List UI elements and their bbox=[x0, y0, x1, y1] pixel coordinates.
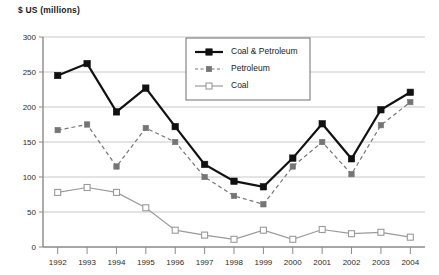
x-axis-tick-label: 1994 bbox=[108, 258, 126, 267]
data-point-marker bbox=[114, 164, 119, 169]
legend-marker-sample bbox=[206, 66, 211, 71]
data-point-marker bbox=[319, 121, 325, 127]
data-point-marker bbox=[113, 109, 119, 115]
data-point-marker bbox=[349, 231, 355, 237]
x-axis-tick-label: 1992 bbox=[49, 258, 67, 267]
data-point-marker bbox=[172, 227, 178, 233]
data-point-marker bbox=[319, 227, 325, 233]
legend-item-label: Coal & Petroleum bbox=[231, 46, 298, 56]
data-point-marker bbox=[55, 72, 61, 78]
legend-marker-sample bbox=[206, 83, 212, 89]
y-axis-tick-label: 0 bbox=[32, 243, 37, 252]
data-point-marker bbox=[231, 236, 237, 242]
data-point-marker bbox=[260, 227, 266, 233]
x-axis-tick-label: 2003 bbox=[372, 258, 390, 267]
legend-item-label: Petroleum bbox=[231, 63, 270, 73]
x-axis-tick-label: 2004 bbox=[401, 258, 419, 267]
y-axis-tick-label: 300 bbox=[23, 33, 37, 42]
data-point-marker bbox=[202, 174, 207, 179]
data-point-marker bbox=[231, 178, 237, 184]
x-axis-tick-label: 1999 bbox=[254, 258, 272, 267]
x-axis-tick-label: 1993 bbox=[78, 258, 96, 267]
x-axis-tick-label: 2000 bbox=[284, 258, 302, 267]
data-point-marker bbox=[290, 155, 296, 161]
x-axis-ticks-group: 1992199319941995199619971998199920002001… bbox=[49, 247, 420, 267]
data-point-marker bbox=[378, 123, 383, 128]
data-point-marker bbox=[260, 184, 266, 190]
legend-item-label: Coal bbox=[231, 80, 249, 90]
y-axis-tick-label: 100 bbox=[23, 173, 37, 182]
x-axis-tick-label: 1997 bbox=[196, 258, 214, 267]
chart-legend: Coal & PetroleumPetroleumCoal bbox=[186, 38, 310, 100]
chart-container: $ US (millions) 050100150200250300 19921… bbox=[0, 0, 439, 275]
data-point-marker bbox=[231, 193, 236, 198]
y-axis-tick-label: 250 bbox=[23, 68, 37, 77]
y-axis-tick-label: 200 bbox=[23, 103, 37, 112]
x-axis-tick-label: 1998 bbox=[225, 258, 243, 267]
data-point-marker bbox=[201, 161, 207, 167]
data-point-marker bbox=[407, 234, 413, 240]
data-point-marker bbox=[290, 236, 296, 242]
data-point-marker bbox=[114, 189, 120, 195]
data-point-marker bbox=[408, 99, 413, 104]
data-point-marker bbox=[84, 185, 90, 191]
data-point-marker bbox=[84, 122, 89, 127]
data-point-marker bbox=[348, 156, 354, 162]
x-axis-tick-label: 2001 bbox=[313, 258, 331, 267]
data-point-marker bbox=[261, 202, 266, 207]
data-point-marker bbox=[320, 139, 325, 144]
data-point-marker bbox=[173, 139, 178, 144]
data-point-marker bbox=[55, 189, 61, 195]
y-axis-tick-label: 150 bbox=[23, 138, 37, 147]
data-point-marker bbox=[202, 232, 208, 238]
data-point-marker bbox=[55, 127, 60, 132]
data-point-marker bbox=[143, 205, 149, 211]
x-axis-tick-label: 1996 bbox=[166, 258, 184, 267]
series-line bbox=[58, 102, 411, 204]
data-point-marker bbox=[378, 107, 384, 113]
x-axis-tick-label: 2002 bbox=[343, 258, 361, 267]
data-point-marker bbox=[290, 164, 295, 169]
x-axis-tick-label: 1995 bbox=[137, 258, 155, 267]
data-point-marker bbox=[143, 85, 149, 91]
data-point-marker bbox=[349, 172, 354, 177]
line-chart-plot: 050100150200250300 199219931994199519961… bbox=[0, 0, 439, 275]
data-point-marker bbox=[378, 229, 384, 235]
data-point-marker bbox=[84, 60, 90, 66]
data-point-marker bbox=[407, 89, 413, 95]
y-axis-ticks-group: 050100150200250300 bbox=[23, 33, 43, 252]
data-point-marker bbox=[143, 125, 148, 130]
legend-marker-sample bbox=[206, 49, 212, 55]
data-point-marker bbox=[172, 123, 178, 129]
y-axis-tick-label: 50 bbox=[27, 208, 36, 217]
